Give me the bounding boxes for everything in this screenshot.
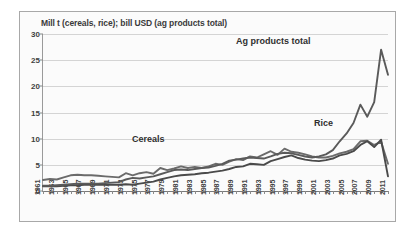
x-tick-mark	[291, 191, 292, 194]
x-tick-label: 1961	[33, 180, 42, 195]
series-lines	[43, 34, 388, 191]
x-tick-mark	[98, 191, 99, 194]
y-tick-label: 30	[31, 30, 40, 39]
annotation-ag-products-total: Ag products total	[236, 36, 311, 46]
x-tick-mark	[140, 191, 141, 194]
x-tick-mark	[126, 191, 127, 194]
x-tick-mark	[374, 191, 375, 194]
x-tick-mark	[236, 191, 237, 194]
x-tick-mark	[250, 191, 251, 194]
chart-figure: Mill t (cereals, rice); bill USD (ag pro…	[19, 11, 396, 222]
x-tick-mark	[209, 191, 210, 194]
x-tick-mark	[71, 191, 72, 194]
y-tick-label: 5	[36, 160, 40, 169]
x-tick-mark	[222, 191, 223, 194]
plot-area: 051015202530 196119631965196719691971197…	[42, 34, 388, 192]
x-tick-mark	[388, 191, 389, 194]
x-tick-mark	[305, 191, 306, 194]
x-tick-mark	[57, 191, 58, 194]
x-tick-mark	[195, 191, 196, 194]
x-tick-mark	[278, 191, 279, 194]
x-tick-mark	[153, 191, 154, 194]
y-tick-label: 20	[31, 82, 40, 91]
x-tick-mark	[264, 191, 265, 194]
y-tick-label: 15	[31, 108, 40, 117]
annotation-cereals: Cereals	[132, 134, 165, 144]
x-tick-mark	[181, 191, 182, 194]
x-tick-mark	[360, 191, 361, 194]
chart-title: Mill t (cereals, rice); bill USD (ag pro…	[41, 18, 227, 28]
x-tick-mark	[43, 191, 44, 194]
x-tick-mark	[333, 191, 334, 194]
x-tick-mark	[347, 191, 348, 194]
series-line-ag-products-total	[43, 50, 388, 186]
annotation-rice: Rice	[314, 118, 333, 128]
x-tick-mark	[319, 191, 320, 194]
x-tick-mark	[84, 191, 85, 194]
x-tick-mark	[112, 191, 113, 194]
y-tick-label: 25	[31, 56, 40, 65]
x-tick-mark	[167, 191, 168, 194]
y-tick-label: 10	[31, 134, 40, 143]
